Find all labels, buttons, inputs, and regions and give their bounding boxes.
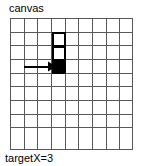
- target-x-label: targetX=3: [5, 152, 53, 164]
- canvas-figure: canvas: [0, 0, 142, 166]
- grid-lines-vertical: [11, 18, 133, 150]
- cell-outlined-r2[interactable]: [53, 47, 66, 60]
- canvas-grid: [10, 18, 133, 150]
- cell-outlined-r1[interactable]: [53, 33, 66, 46]
- grid-lines-horizontal: [10, 19, 133, 150]
- grid-border: [11, 19, 133, 150]
- page-title: canvas: [9, 2, 44, 14]
- grid-svg: [10, 18, 133, 150]
